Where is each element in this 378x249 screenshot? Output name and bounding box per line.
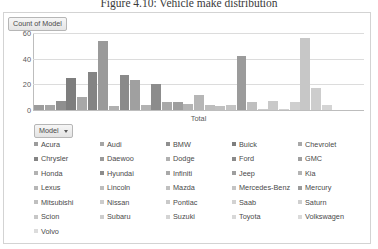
legend-swatch-icon — [34, 171, 38, 175]
chart-panel: Count of Model 0204060 Total — [4, 13, 370, 123]
legend-swatch-icon — [100, 186, 104, 190]
legend-item-label: Scion — [41, 212, 59, 221]
bar — [66, 78, 76, 110]
bar — [279, 109, 289, 110]
legend-item[interactable]: Lincoln — [100, 181, 166, 196]
legend-item[interactable]: Acura — [34, 137, 100, 152]
legend-item[interactable]: Chevrolet — [298, 137, 364, 152]
bar — [34, 105, 44, 110]
legend-item[interactable]: Saturn — [298, 195, 364, 210]
bar — [141, 105, 151, 110]
legend-item[interactable]: Ford — [232, 152, 298, 167]
legend-swatch-icon — [34, 215, 38, 219]
legend-item-label: Saturn — [305, 198, 327, 207]
legend-swatch-icon — [232, 142, 236, 146]
legend-swatch-icon — [166, 215, 170, 219]
legend-item[interactable]: Mitsubishi — [34, 195, 100, 210]
legend-swatch-icon — [298, 142, 302, 146]
bar — [120, 75, 130, 110]
legend-item[interactable]: Kia — [298, 166, 364, 181]
legend-item[interactable]: Saab — [232, 195, 298, 210]
value-field-label: Count of Model — [13, 19, 62, 29]
bar — [268, 101, 278, 110]
chevron-down-icon — [64, 130, 68, 133]
legend-item-label: Volvo — [41, 227, 59, 236]
legend-swatch-icon — [232, 200, 236, 204]
legend-item[interactable]: Mazda — [166, 181, 232, 196]
legend-swatch-icon — [298, 171, 302, 175]
legend-item[interactable]: Lexus — [34, 181, 100, 196]
bar — [311, 88, 321, 110]
legend-item[interactable]: Audi — [100, 137, 166, 152]
legend-item-label: Chevrolet — [305, 140, 336, 149]
bar — [77, 97, 87, 110]
legend-item-label: Nissan — [107, 198, 129, 207]
legend-item[interactable]: Subaru — [100, 210, 166, 225]
bar — [215, 106, 225, 110]
legend-item-label: Dodge — [173, 154, 195, 163]
bar — [194, 95, 204, 110]
legend-item-label: Ford — [239, 154, 254, 163]
legend-item[interactable]: Volkswagen — [298, 210, 364, 225]
bar — [183, 104, 193, 110]
bar — [290, 102, 300, 110]
legend-item[interactable]: Daewoo — [100, 152, 166, 167]
legend-item[interactable]: Pontiac — [166, 195, 232, 210]
y-axis-tick-label: 40 — [7, 55, 31, 64]
bar — [173, 102, 183, 110]
legend-item-label: BMW — [173, 140, 191, 149]
legend-item[interactable]: Suzuki — [166, 210, 232, 225]
legend-swatch-icon — [166, 157, 170, 161]
bar — [226, 105, 236, 110]
bar-series — [34, 33, 364, 110]
legend-item[interactable]: Mercedes-Benz — [232, 181, 298, 196]
legend-item[interactable]: Chrysler — [34, 152, 100, 167]
legend-item[interactable]: Jeep — [232, 166, 298, 181]
legend-item-label: Infiniti — [173, 169, 192, 178]
legend-item[interactable]: Volvo — [34, 224, 100, 239]
legend-item[interactable]: Honda — [34, 166, 100, 181]
y-axis-tick-label: 0 — [7, 106, 31, 115]
legend-item[interactable]: Toyota — [232, 210, 298, 225]
legend-swatch-icon — [232, 186, 236, 190]
legend-swatch-icon — [100, 200, 104, 204]
filter-field-button[interactable]: Model — [34, 124, 73, 138]
legend-item[interactable]: Nissan — [100, 195, 166, 210]
legend-item-label: GMC — [305, 154, 322, 163]
legend-item[interactable]: Infiniti — [166, 166, 232, 181]
legend-swatch-icon — [232, 157, 236, 161]
legend-swatch-icon — [34, 157, 38, 161]
legend-swatch-icon — [34, 200, 38, 204]
legend-item[interactable]: BMW — [166, 137, 232, 152]
legend-swatch-icon — [298, 215, 302, 219]
legend-swatch-icon — [100, 171, 104, 175]
bar — [88, 72, 98, 111]
legend-item[interactable]: Mercury — [298, 181, 364, 196]
x-axis-line — [33, 110, 364, 111]
legend-item-label: Daewoo — [107, 154, 134, 163]
legend-item-label: Volkswagen — [305, 212, 344, 221]
bar — [322, 105, 332, 110]
legend-item[interactable]: Dodge — [166, 152, 232, 167]
legend-swatch-icon — [166, 200, 170, 204]
legend-item-label: Pontiac — [173, 198, 197, 207]
legend-swatch-icon — [232, 215, 236, 219]
y-axis-tick-label: 20 — [7, 80, 31, 89]
x-axis-label: Total — [33, 114, 364, 123]
legend-item-label: Buick — [239, 140, 257, 149]
legend-item-label: Mercedes-Benz — [239, 183, 290, 192]
figure-caption: Figure 4.10: Vehicle make distribution — [0, 0, 378, 9]
legend-item[interactable]: Hyundai — [100, 166, 166, 181]
bar — [151, 84, 161, 110]
legend-item-label: Jeep — [239, 169, 255, 178]
legend-item[interactable]: Buick — [232, 137, 298, 152]
legend-item[interactable]: GMC — [298, 152, 364, 167]
legend-item-label: Mazda — [173, 183, 195, 192]
legend-item-label: Honda — [41, 169, 63, 178]
legend-swatch-icon — [166, 142, 170, 146]
legend-item[interactable]: Scion — [34, 210, 100, 225]
pivot-chart-frame: Count of Model 0204060 Total Model Acura… — [3, 12, 371, 244]
legend-item-label: Toyota — [239, 212, 261, 221]
chart-legend: AcuraAudiBMWBuickChevroletChryslerDaewoo… — [34, 137, 364, 239]
legend-swatch-icon — [34, 186, 38, 190]
